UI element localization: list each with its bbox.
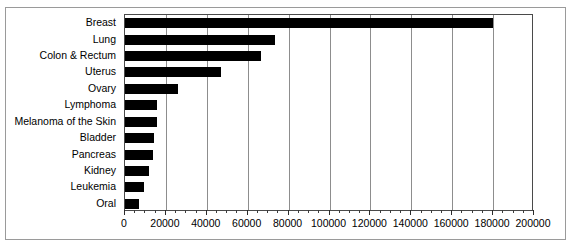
bar bbox=[125, 117, 157, 127]
x-tick-minor bbox=[318, 210, 319, 213]
x-tick-label: 200000 bbox=[515, 217, 550, 229]
x-tick-minor bbox=[267, 210, 268, 213]
x-tick-minor bbox=[134, 210, 135, 213]
x-tick-minor bbox=[257, 210, 258, 213]
x-tick-minor bbox=[502, 210, 503, 213]
x-tick-minor bbox=[349, 210, 350, 213]
x-tick-label: 0 bbox=[121, 217, 127, 229]
x-tick-major bbox=[369, 210, 370, 215]
category-label: Lung bbox=[93, 33, 116, 45]
bar bbox=[125, 84, 178, 94]
x-tick-major bbox=[329, 210, 330, 215]
x-tick-label: 60000 bbox=[232, 217, 261, 229]
category-label: Uterus bbox=[85, 65, 116, 77]
bar bbox=[125, 133, 154, 143]
bar bbox=[125, 51, 261, 61]
bar bbox=[125, 35, 275, 45]
x-tick-minor bbox=[175, 210, 176, 213]
x-tick-minor bbox=[390, 210, 391, 213]
x-tick-minor bbox=[380, 210, 381, 213]
x-tick-major bbox=[206, 210, 207, 215]
x-tick-minor bbox=[196, 210, 197, 213]
category-label: Kidney bbox=[84, 164, 116, 176]
x-tick-minor bbox=[513, 210, 514, 213]
x-tick-minor bbox=[277, 210, 278, 213]
x-axis: 0200004000060000800001000001200001400001… bbox=[124, 210, 533, 240]
x-tick-minor bbox=[216, 210, 217, 213]
x-tick-major bbox=[165, 210, 166, 215]
x-tick-minor bbox=[226, 210, 227, 213]
category-label: Leukemia bbox=[70, 180, 116, 192]
x-tick-label: 80000 bbox=[273, 217, 302, 229]
chart-figure: BreastLungColon & RectumUterusOvaryLymph… bbox=[0, 0, 572, 246]
x-tick-minor bbox=[236, 210, 237, 213]
bar bbox=[125, 150, 153, 160]
x-tick-major bbox=[288, 210, 289, 215]
x-tick-label: 180000 bbox=[475, 217, 510, 229]
x-tick-label: 20000 bbox=[150, 217, 179, 229]
x-tick-minor bbox=[185, 210, 186, 213]
x-tick-minor bbox=[400, 210, 401, 213]
bar bbox=[125, 166, 149, 176]
x-tick-minor bbox=[523, 210, 524, 213]
x-tick-minor bbox=[359, 210, 360, 213]
x-tick-minor bbox=[421, 210, 422, 213]
x-tick-major bbox=[410, 210, 411, 215]
category-label: Bladder bbox=[80, 131, 116, 143]
bar-series bbox=[125, 15, 532, 210]
bar bbox=[125, 18, 493, 28]
x-tick-minor bbox=[298, 210, 299, 213]
plot-area bbox=[124, 14, 533, 211]
category-label: Colon & Rectum bbox=[40, 49, 116, 61]
x-tick-minor bbox=[308, 210, 309, 213]
x-tick-label: 140000 bbox=[393, 217, 428, 229]
x-tick-minor bbox=[339, 210, 340, 213]
x-tick-minor bbox=[482, 210, 483, 213]
x-tick-label: 40000 bbox=[191, 217, 220, 229]
category-label: Ovary bbox=[88, 82, 116, 94]
category-label: Pancreas bbox=[72, 148, 116, 160]
bar bbox=[125, 199, 139, 209]
x-tick-label: 120000 bbox=[352, 217, 387, 229]
bar bbox=[125, 100, 157, 110]
bar bbox=[125, 67, 221, 77]
x-tick-major bbox=[533, 210, 534, 215]
x-tick-minor bbox=[472, 210, 473, 213]
x-tick-major bbox=[451, 210, 452, 215]
x-tick-major bbox=[124, 210, 125, 215]
x-tick-minor bbox=[431, 210, 432, 213]
x-tick-minor bbox=[441, 210, 442, 213]
x-tick-label: 100000 bbox=[311, 217, 346, 229]
category-label: Lymphoma bbox=[64, 98, 116, 110]
y-axis-category-labels: BreastLungColon & RectumUterusOvaryLymph… bbox=[0, 14, 120, 211]
x-tick-label: 160000 bbox=[434, 217, 469, 229]
category-label: Breast bbox=[86, 16, 116, 28]
x-tick-minor bbox=[461, 210, 462, 213]
category-label: Melanoma of the Skin bbox=[14, 115, 116, 127]
x-tick-minor bbox=[155, 210, 156, 213]
x-tick-minor bbox=[144, 210, 145, 213]
bar bbox=[125, 182, 144, 192]
x-tick-major bbox=[492, 210, 493, 215]
x-tick-major bbox=[247, 210, 248, 215]
category-label: Oral bbox=[96, 197, 116, 209]
